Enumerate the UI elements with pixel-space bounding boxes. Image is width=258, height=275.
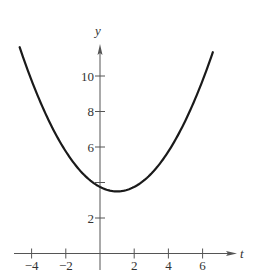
curve-line [20, 47, 213, 191]
y-tick-label: 10 [81, 69, 94, 84]
x-tick-label: −2 [59, 258, 73, 273]
x-tick-label: 6 [199, 258, 206, 273]
x-axis-label: t [240, 246, 244, 261]
y-tick-label: 2 [88, 211, 95, 226]
ticks: −4−224626810 [25, 69, 207, 273]
x-tick-label: 2 [131, 258, 138, 273]
y-tick-label: 6 [88, 140, 95, 155]
y-tick-label: 8 [88, 104, 95, 119]
y-axis-label: y [93, 23, 101, 38]
x-tick-label: 4 [165, 258, 172, 273]
curve-series [20, 47, 213, 191]
x-tick-label: −4 [25, 258, 39, 273]
chart-plot: −4−224626810 t y [0, 0, 258, 275]
